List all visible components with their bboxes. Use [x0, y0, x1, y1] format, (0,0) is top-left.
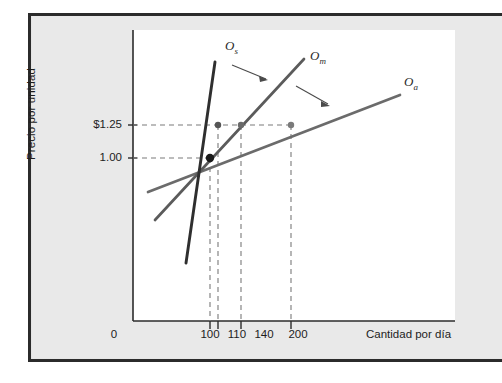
- curve-label-oa: Oa: [404, 74, 418, 92]
- curve-label-om: Om: [310, 48, 326, 66]
- y-axis-title: Precio por unidad: [25, 29, 37, 199]
- curve-label-oa-sub: a: [413, 82, 418, 92]
- curve-label-oa-main: O: [404, 74, 413, 89]
- figure-root: Precio por unidad $1.25 1.00 0 100 110 1…: [0, 0, 502, 383]
- curve-label-os: Os: [225, 38, 238, 56]
- x-axis-title: Cantidad por día: [366, 328, 451, 340]
- curve-label-os-sub: s: [234, 46, 238, 56]
- y-tick-label-100: 1.00: [60, 151, 122, 163]
- curve-label-om-main: O: [310, 48, 319, 63]
- curve-label-os-main: O: [225, 38, 234, 53]
- x-tick-label-140: 140: [247, 328, 281, 340]
- x-tick-label-200: 200: [281, 328, 315, 340]
- curve-label-om-sub: m: [319, 56, 326, 66]
- y-tick-label-125: $1.25: [60, 118, 122, 130]
- origin-label: 0: [104, 328, 124, 340]
